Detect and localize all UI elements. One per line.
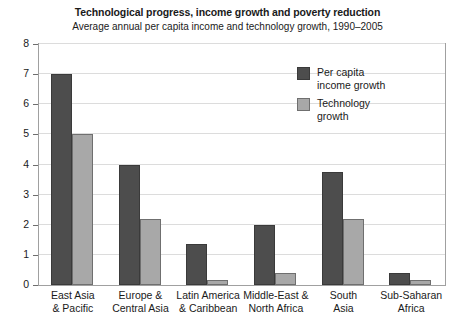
legend: Per capita income growthTechnology growt… xyxy=(297,66,385,128)
bar xyxy=(254,225,275,285)
bar-group xyxy=(39,44,107,285)
x-axis-label: Middle-East & North Africa xyxy=(242,289,310,315)
chart-title: Technological progress, income growth an… xyxy=(0,6,455,19)
bar xyxy=(410,280,431,285)
legend-swatch xyxy=(297,98,310,111)
y-axis-tick-label: 4 xyxy=(23,158,29,171)
bar xyxy=(389,273,410,285)
bar xyxy=(119,165,140,286)
y-axis-tick-label: 0 xyxy=(23,278,29,291)
bar xyxy=(207,280,228,285)
legend-swatch xyxy=(297,67,310,80)
y-axis-tick-label: 8 xyxy=(23,37,29,50)
y-axis-tick-label: 2 xyxy=(23,218,29,231)
chart-subtitle: Average annual per capita income and tec… xyxy=(0,20,455,33)
legend-item: Per capita income growth xyxy=(297,66,385,91)
bar-group xyxy=(377,44,445,285)
x-axis-label: Europe & Central Asia xyxy=(107,289,175,315)
y-axis-tick-label: 6 xyxy=(23,97,29,110)
bar xyxy=(186,244,207,285)
x-axis-labels: East Asia & PacificEurope & Central Asia… xyxy=(39,289,445,329)
legend-item: Technology growth xyxy=(297,97,385,122)
y-axis-tick-label: 3 xyxy=(23,188,29,201)
bar-group xyxy=(174,44,242,285)
x-axis-label: Sub-Saharan Africa xyxy=(377,289,445,315)
bar xyxy=(140,219,161,285)
y-axis-tick-label: 7 xyxy=(23,67,29,80)
bar xyxy=(51,74,72,285)
bar xyxy=(72,134,93,285)
bar xyxy=(322,172,343,285)
title-block: Technological progress, income growth an… xyxy=(0,6,455,33)
legend-label: Technology growth xyxy=(317,97,370,122)
x-axis-label: Latin America & Caribbean xyxy=(174,289,242,315)
y-axis: 012345678 xyxy=(0,43,38,286)
y-axis-tick-label: 5 xyxy=(23,127,29,140)
bar xyxy=(275,273,296,285)
bar-group xyxy=(107,44,175,285)
bar xyxy=(343,219,364,285)
bar-chart: Technological progress, income growth an… xyxy=(0,0,455,330)
legend-label: Per capita income growth xyxy=(317,66,385,91)
y-axis-tick-label: 1 xyxy=(23,248,29,261)
x-axis-label: East Asia & Pacific xyxy=(39,289,107,315)
x-axis-label: South Asia xyxy=(310,289,378,315)
